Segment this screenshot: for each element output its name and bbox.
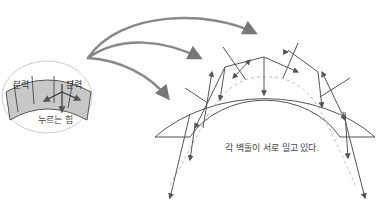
arch-diagram bbox=[0, 0, 388, 213]
force-arrows bbox=[170, 50, 365, 198]
pointer-arrow-bottom bbox=[88, 58, 168, 98]
caption: 각 벽돌이 서로 밀고 있다. bbox=[225, 141, 319, 154]
inset-press-label: 누르는 힘 bbox=[38, 113, 73, 126]
thrust-line bbox=[170, 77, 355, 185]
pointer-arrow-top bbox=[88, 18, 255, 58]
pointer-arrows bbox=[88, 18, 255, 98]
inset-right-force-label: 분력 bbox=[66, 78, 82, 91]
pointer-arrow-middle bbox=[88, 43, 200, 58]
inset-left-force-label: 분력 bbox=[13, 78, 29, 91]
